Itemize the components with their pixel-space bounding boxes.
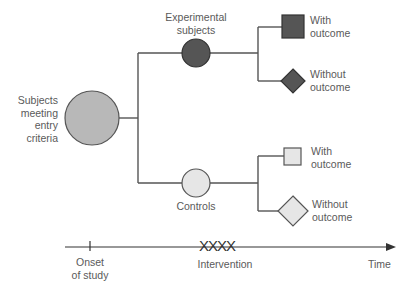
root-circle bbox=[65, 91, 119, 145]
intervention-marks: XXXX bbox=[199, 238, 235, 254]
control-without-outcome-label: Without outcome bbox=[312, 198, 352, 223]
experimental-circle bbox=[182, 39, 210, 67]
onset-label: Onset of study bbox=[62, 256, 118, 281]
intervention-label: Intervention bbox=[190, 258, 260, 271]
control-circle bbox=[182, 169, 210, 197]
control-without-outcome-diamond bbox=[278, 196, 308, 226]
timeline-arrow-icon bbox=[386, 243, 396, 251]
controls-label: Controls bbox=[166, 200, 226, 213]
experimental-label: Experimental subjects bbox=[156, 11, 236, 36]
root-label: Subjects meeting entry criteria bbox=[8, 94, 58, 144]
experimental-with-outcome-square bbox=[282, 15, 304, 38]
control-with-outcome-label: With outcome bbox=[311, 145, 351, 170]
control-with-outcome-square bbox=[284, 148, 301, 165]
time-axis-label: Time bbox=[368, 258, 391, 271]
experimental-without-outcome-label: Without outcome bbox=[310, 68, 350, 93]
experimental-with-outcome-label: With outcome bbox=[310, 14, 350, 39]
experimental-without-outcome-diamond bbox=[281, 69, 305, 93]
